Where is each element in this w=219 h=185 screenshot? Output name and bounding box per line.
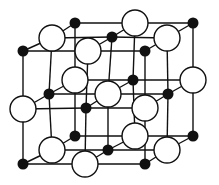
large-ion-circle — [39, 25, 65, 51]
large-ion-circle — [154, 25, 180, 51]
small-ion-dot — [18, 46, 29, 57]
lattice-atoms — [10, 10, 206, 177]
large-ion-circle — [180, 67, 206, 93]
small-ion-dot — [128, 75, 139, 86]
small-ion-dot — [188, 131, 199, 142]
crystal-lattice-diagram — [0, 0, 219, 185]
large-ion-circle — [72, 151, 98, 177]
small-ion-dot — [103, 145, 114, 156]
small-ion-dot — [70, 18, 81, 29]
large-ion-circle — [95, 81, 121, 107]
small-ion-dot — [107, 32, 118, 43]
small-ion-dot — [140, 46, 151, 57]
large-ion-circle — [122, 123, 148, 149]
small-ion-dot — [18, 159, 29, 170]
large-ion-circle — [132, 95, 158, 121]
small-ion-dot — [140, 159, 151, 170]
small-ion-dot — [188, 18, 199, 29]
small-ion-dot — [163, 89, 174, 100]
large-ion-circle — [62, 67, 88, 93]
large-ion-circle — [75, 38, 101, 64]
large-ion-circle — [39, 137, 65, 163]
small-ion-dot — [81, 103, 92, 114]
large-ion-circle — [154, 137, 180, 163]
large-ion-circle — [10, 96, 36, 122]
small-ion-dot — [70, 131, 81, 142]
small-ion-dot — [44, 89, 55, 100]
large-ion-circle — [122, 10, 148, 36]
